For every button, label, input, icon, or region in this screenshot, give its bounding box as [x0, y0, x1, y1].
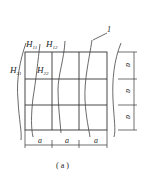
- labels-layer: H11 H12 H21 H22 1 a a a a a a ( a ): [0, 0, 153, 183]
- label-h12: H12: [45, 39, 58, 50]
- dim-v-1: a: [124, 63, 133, 67]
- dim-h-2: a: [65, 136, 69, 145]
- dim-v-3: a: [124, 115, 133, 119]
- dim-h-3: a: [94, 136, 98, 145]
- figure-caption: ( a ): [56, 161, 69, 170]
- dim-v-2: a: [124, 89, 133, 93]
- label-h22: H22: [36, 65, 49, 76]
- label-h21: H21: [9, 65, 22, 76]
- label-h11: H11: [25, 39, 37, 50]
- marker-label: 1: [107, 25, 111, 34]
- dim-h-1: a: [38, 136, 42, 145]
